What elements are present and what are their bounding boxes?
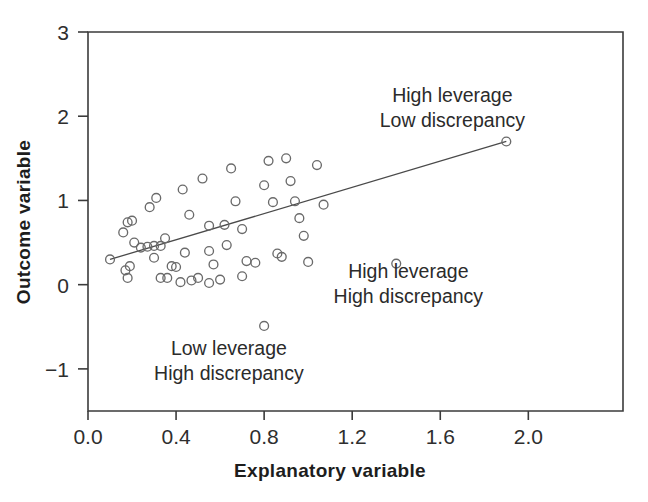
annotation-line-2: High discrepancy: [154, 362, 304, 384]
y-tick-labels: 3210−1: [45, 21, 69, 381]
plot-canvas: 0.00.40.81.21.62.0 3210−1 Explanatory va…: [0, 0, 648, 502]
x-tick-label: 1.6: [426, 425, 455, 448]
data-point: [231, 197, 240, 206]
y-tick-label: 3: [57, 21, 69, 44]
x-tick-labels: 0.00.40.81.21.62.0: [73, 425, 543, 448]
data-point: [216, 275, 225, 284]
data-point: [185, 210, 194, 219]
x-axis-ticks: [88, 411, 528, 420]
y-tick-label: 2: [57, 105, 69, 128]
data-point: [313, 161, 322, 170]
data-point: [282, 154, 291, 163]
plot-frame: [88, 32, 623, 411]
regression-line-segment: [110, 141, 506, 259]
data-point: [163, 274, 172, 283]
data-point: [178, 185, 187, 194]
data-point: [205, 279, 214, 288]
data-point: [119, 228, 128, 237]
annotation-low-leverage-high-discrepancy: Low leverageHigh discrepancy: [154, 337, 304, 384]
x-tick-label: 1.2: [338, 425, 367, 448]
annotation-line-1: High leverage: [348, 260, 468, 282]
data-point: [269, 198, 278, 207]
x-tick-label: 0.8: [250, 425, 279, 448]
annotation-high-leverage-high-discrepancy: High leverageHigh discrepancy: [334, 260, 484, 307]
data-point: [299, 231, 308, 240]
data-point: [260, 322, 269, 331]
data-point: [260, 181, 269, 190]
annotation-line-1: High leverage: [392, 84, 512, 106]
annotation-line-1: Low leverage: [171, 337, 287, 359]
y-tick-label: −1: [45, 358, 69, 381]
data-point: [242, 257, 251, 266]
data-point: [295, 214, 304, 223]
regression-line: [110, 141, 506, 259]
data-point: [304, 258, 313, 267]
y-tick-label: 1: [57, 189, 69, 212]
scatterplot-figure: 0.00.40.81.21.62.0 3210−1 Explanatory va…: [0, 0, 648, 502]
annotation-line-2: Low discrepancy: [380, 109, 525, 131]
data-point: [238, 225, 247, 234]
plot-annotations: High leverageLow discrepancyHigh leverag…: [154, 84, 525, 385]
x-tick-label: 0.4: [161, 425, 191, 448]
data-point: [161, 234, 170, 243]
data-point: [209, 260, 218, 269]
data-point: [251, 258, 260, 267]
data-point: [319, 200, 328, 209]
data-point: [180, 248, 189, 257]
data-point: [152, 194, 161, 203]
data-point: [150, 253, 159, 262]
data-point: [198, 174, 207, 183]
x-tick-label: 2.0: [514, 425, 543, 448]
data-point: [222, 241, 231, 250]
x-axis-title: Explanatory variable: [234, 460, 426, 481]
y-tick-label: 0: [57, 274, 69, 297]
y-axis-ticks: [78, 32, 88, 369]
x-tick-label: 0.0: [73, 425, 102, 448]
y-axis-title: Outcome variable: [13, 140, 34, 304]
data-point: [145, 203, 154, 212]
data-point: [205, 247, 214, 256]
data-point: [264, 156, 273, 165]
data-point: [238, 272, 247, 281]
annotation-high-leverage-low-discrepancy: High leverageLow discrepancy: [380, 84, 525, 131]
data-point: [227, 164, 236, 173]
data-point: [176, 278, 185, 287]
data-point: [205, 221, 214, 230]
annotation-line-2: High discrepancy: [334, 285, 484, 307]
data-point: [286, 177, 295, 186]
